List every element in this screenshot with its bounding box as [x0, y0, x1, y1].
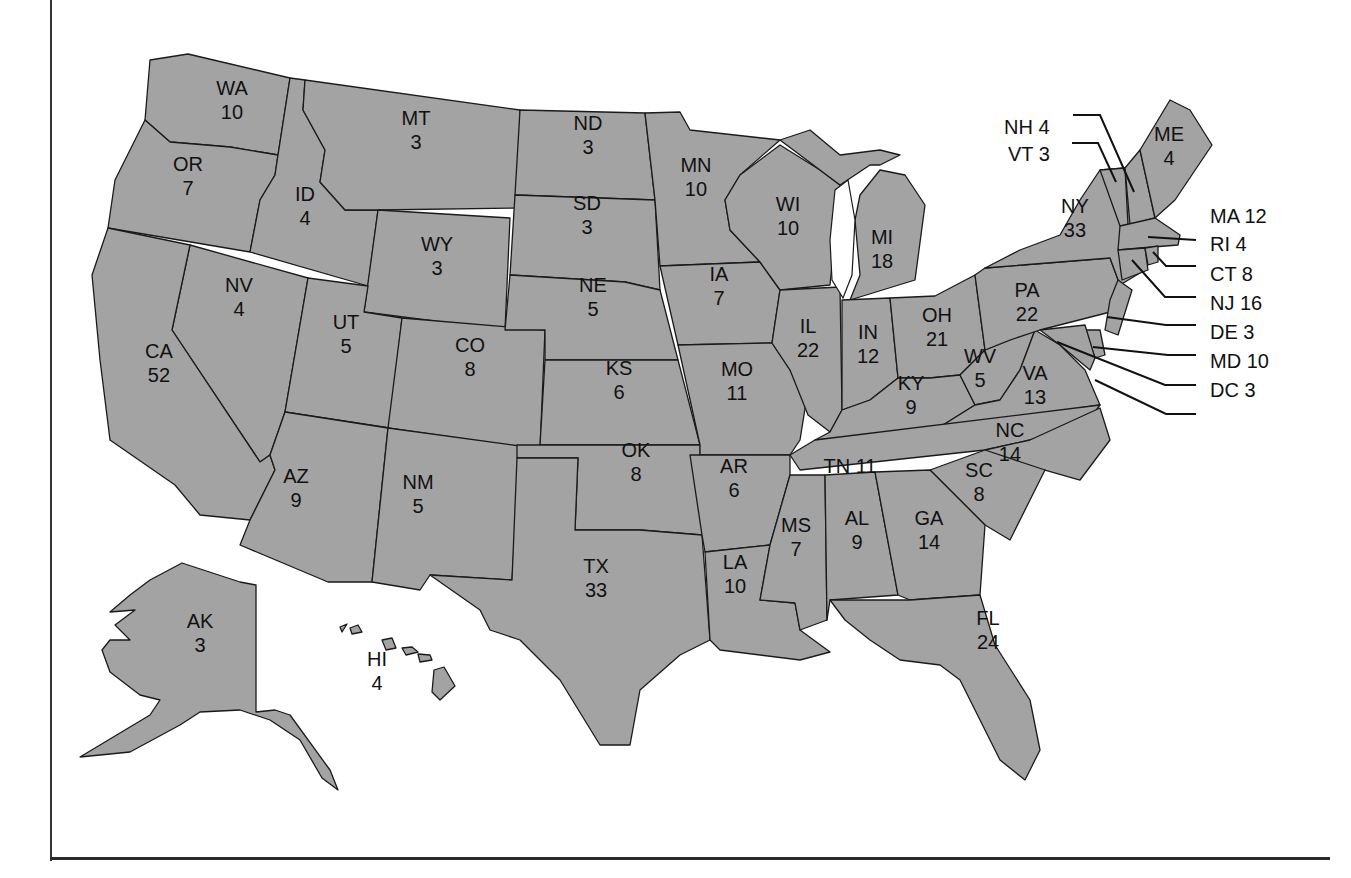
state-abbr: HI: [367, 647, 387, 671]
island-oahu: [350, 625, 362, 634]
state-ct: [1118, 248, 1148, 280]
callout-dc: DC 3: [1210, 378, 1256, 402]
state-abbr: MO: [721, 357, 753, 381]
state-label-sd: SD3: [573, 191, 601, 239]
us-electoral-map: [0, 0, 1351, 878]
callout-nj: NJ 16: [1210, 291, 1262, 315]
state-abbr: MI: [871, 225, 893, 249]
electoral-votes: 3: [574, 135, 603, 159]
state-abbr: OR: [173, 152, 203, 176]
electoral-votes: 7: [173, 176, 203, 200]
electoral-votes: 3: [187, 633, 214, 657]
state-abbr: OH: [922, 303, 952, 327]
electoral-votes: 4: [295, 206, 315, 230]
state-label-ky: KY9: [898, 371, 925, 419]
state-label-id: ID4: [295, 182, 315, 230]
state-abbr: MT: [402, 106, 431, 130]
state-abbr: MS: [781, 513, 811, 537]
callout-de: DE 3: [1210, 320, 1254, 344]
lake-michigan: [830, 180, 855, 298]
state-abbr: NE: [579, 273, 607, 297]
state-label-ga: GA14: [915, 506, 944, 554]
state-label-mn: MN10: [680, 153, 711, 201]
state-label-tx: TX33: [583, 554, 609, 602]
state-abbr: GA: [915, 506, 944, 530]
state-abbr: KS: [606, 356, 633, 380]
state-abbr: TX: [583, 554, 609, 578]
state-label-ak: AK3: [187, 609, 214, 657]
electoral-votes: 9: [283, 488, 309, 512]
electoral-votes: 7: [781, 537, 811, 561]
electoral-votes: 4: [225, 297, 253, 321]
electoral-votes: 3: [402, 130, 431, 154]
callout-ct: CT 8: [1210, 262, 1253, 286]
state-abbr: SD: [573, 191, 601, 215]
island-hawaii: [432, 667, 455, 700]
island-maui: [402, 647, 418, 655]
state-label-ia: IA7: [710, 262, 729, 310]
electoral-votes: 8: [965, 482, 993, 506]
state-label-ar: AR6: [720, 454, 748, 502]
electoral-votes: 33: [1061, 218, 1089, 242]
leader-de: [1093, 347, 1196, 355]
state-label-co: CO8: [455, 333, 485, 381]
state-abbr: NY: [1061, 194, 1089, 218]
state-fl: [830, 595, 1040, 780]
state-abbr: PA: [1014, 278, 1039, 302]
state-label-nd: ND3: [574, 111, 603, 159]
electoral-votes: 5: [964, 368, 996, 392]
state-label-hi: HI4: [367, 647, 387, 695]
electoral-votes: 3: [421, 256, 453, 280]
state-abbr: WV: [964, 344, 996, 368]
state-label-wv: WV5: [964, 344, 996, 392]
state-abbr: ME: [1154, 122, 1184, 146]
electoral-votes: 18: [871, 249, 893, 273]
electoral-votes: 5: [333, 334, 360, 358]
state-label-az: AZ9: [283, 464, 309, 512]
state-abbr: NM: [402, 470, 433, 494]
state-label-mt: MT3: [402, 106, 431, 154]
electoral-votes: 22: [1014, 302, 1039, 326]
electoral-votes: 22: [797, 338, 819, 362]
state-label-oh: OH21: [922, 303, 952, 351]
electoral-votes: 24: [976, 630, 999, 654]
state-label-ks: KS6: [606, 356, 633, 404]
electoral-votes: 33: [583, 578, 609, 602]
state-label-wa: WA10: [216, 76, 247, 124]
electoral-votes: 5: [402, 494, 433, 518]
electoral-votes: 9: [845, 530, 869, 554]
state-label-nm: NM5: [402, 470, 433, 518]
state-abbr: AZ: [283, 464, 309, 488]
state-label-mo: MO11: [721, 357, 753, 405]
state-abbr: LA: [723, 550, 747, 574]
state-nm: [372, 428, 520, 590]
callout-ma: MA 12: [1210, 204, 1267, 228]
state-abbr: WY: [421, 232, 453, 256]
state-label-wy: WY3: [421, 232, 453, 280]
state-label-la: LA10: [723, 550, 747, 598]
leader-ri: [1153, 252, 1196, 266]
electoral-votes: 4: [367, 671, 387, 695]
state-label-in: IN12: [857, 320, 879, 368]
state-abbr: KY: [898, 371, 925, 395]
electoral-votes: 21: [922, 327, 952, 351]
state-abbr: FL: [976, 606, 999, 630]
electoral-votes: 14: [915, 530, 944, 554]
electoral-votes: 13: [1022, 385, 1047, 409]
electoral-votes: 10: [723, 574, 747, 598]
state-label-ok: OK8: [622, 438, 651, 486]
electoral-votes: 9: [898, 395, 925, 419]
state-label-sc: SC8: [965, 458, 993, 506]
electoral-votes: 7: [710, 286, 729, 310]
state-abbr: UT: [333, 310, 360, 334]
callout-nh: NH 4: [1004, 115, 1050, 139]
electoral-votes: 10: [216, 100, 247, 124]
state-label-ca: CA52: [145, 339, 173, 387]
electoral-votes: 6: [606, 380, 633, 404]
electoral-votes: 52: [145, 363, 173, 387]
state-abbr: ID: [295, 182, 315, 206]
state-label-fl: FL24: [976, 606, 999, 654]
state-label-me: ME4: [1154, 122, 1184, 170]
state-abbr: SC: [965, 458, 993, 482]
state-abbr: IL: [797, 314, 819, 338]
